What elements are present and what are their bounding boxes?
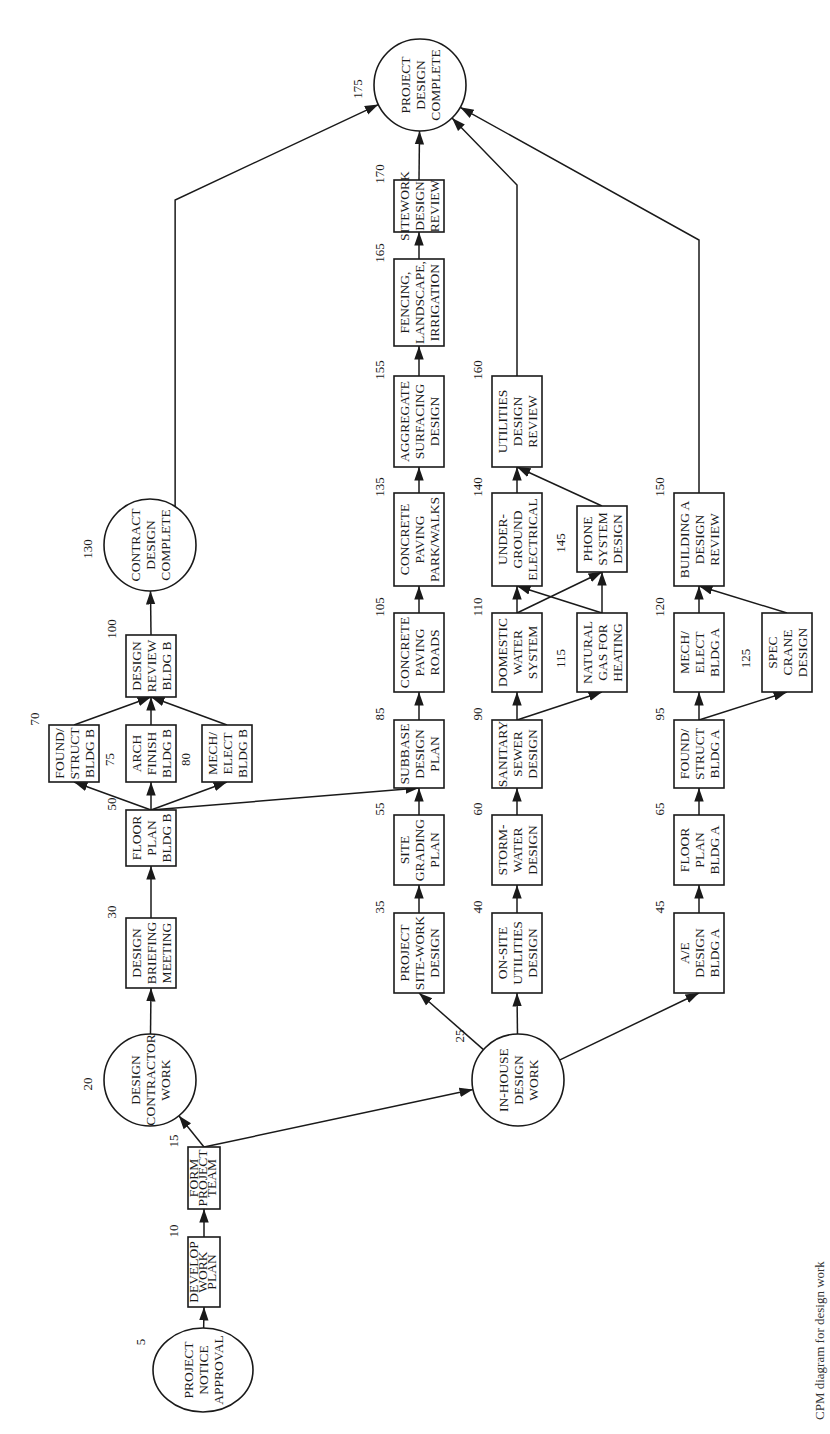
node-number: 40 xyxy=(470,901,485,914)
edge-95-to-125 xyxy=(699,692,787,720)
node-number: 95 xyxy=(652,708,667,721)
edge-160-to-175 xyxy=(452,118,517,376)
edge-15-to-20 xyxy=(179,1116,204,1147)
node-label: ARCHFINISHBLDG B xyxy=(129,729,174,778)
node-80: MECH/ELECTBLDG B80 xyxy=(178,725,252,782)
edge-70-to-100 xyxy=(74,697,151,725)
node-number: 10 xyxy=(166,1225,181,1238)
node-number: 150 xyxy=(652,477,667,497)
caption-text: CPM diagram for design work xyxy=(812,1261,827,1420)
node-label: FOUND/STRUCTBLDG A xyxy=(677,727,722,780)
node-number: 30 xyxy=(104,906,119,919)
node-55: SITEGRADINGPLAN55 xyxy=(372,803,444,886)
node-90: SANITARYSEWERDESIGN90 xyxy=(470,708,542,789)
edge-80-to-100 xyxy=(151,697,227,725)
node-50: FLOORPLANBLDG B50 xyxy=(104,798,176,867)
node-number: 20 xyxy=(80,1078,95,1091)
figure-caption: CPM diagram for design work xyxy=(812,1261,827,1420)
node-number: 145 xyxy=(553,533,568,553)
edge-50-to-80 xyxy=(151,782,227,810)
node-number: 65 xyxy=(652,803,667,816)
node-135: CONCRETEPAVINGPARK/WALKS135 xyxy=(372,477,444,586)
node-40: ON-SITEUTILITIESDESIGN40 xyxy=(470,901,542,994)
node-label: FLOORPLANBLDG B xyxy=(129,813,174,862)
node-label: SITEWORKDESIGNREVIEW xyxy=(397,171,442,241)
node-number: 50 xyxy=(104,798,119,811)
node-number: 70 xyxy=(27,713,42,726)
edge-20-to-30 xyxy=(150,988,151,1034)
edge-115-to-140 xyxy=(517,586,602,613)
node-label: MECH/ELECTBLDG A xyxy=(677,628,722,677)
node-125: SPECCRANEDESIGN125 xyxy=(738,613,812,692)
node-35: PROJECTSITE-WORKDESIGN35 xyxy=(372,901,444,994)
node-160: UTILITIESDESIGNREVIEW160 xyxy=(470,360,542,467)
cpm-network-diagram: PROJECTNOTICEAPPROVAL5DEVELOPWORKPLAN10F… xyxy=(0,0,830,1434)
node-115: NATURALGAS FORHEATING115 xyxy=(553,613,627,692)
node-175: PROJECTDESIGNCOMPLETE175 xyxy=(350,39,466,131)
node-45: A/EDESIGNBLDG A45 xyxy=(652,901,724,994)
node-30: DESIGNBRIEFINGMEETING30 xyxy=(104,906,176,989)
node-60: STORM-WATERDESIGN60 xyxy=(470,803,542,886)
node-120: MECH/ELECTBLDG A120 xyxy=(652,597,724,692)
node-95: FOUND/STRUCTBLDG A95 xyxy=(652,708,724,789)
node-170: SITEWORKDESIGNREVIEW170 xyxy=(372,164,444,241)
node-number: 90 xyxy=(470,708,485,721)
node-number: 115 xyxy=(553,649,568,668)
node-number: 120 xyxy=(652,597,667,617)
node-number: 5 xyxy=(133,1339,148,1346)
node-number: 45 xyxy=(652,901,667,914)
node-label: PHONESYSTEMDESIGN xyxy=(580,512,625,565)
node-label: ON-SITEUTILITIESDESIGN xyxy=(495,921,540,985)
node-75: ARCHFINISHBLDG B75 xyxy=(102,725,176,782)
node-150: BUILDING ADESIGNREVIEW150 xyxy=(652,477,724,586)
edge-25-to-45 xyxy=(559,993,699,1060)
edge-130-to-175 xyxy=(175,105,378,507)
node-140: UNDER-GROUNDELECTRICAL140 xyxy=(470,477,542,586)
node-label: MECH/ELECTBLDG B xyxy=(205,729,250,778)
node-165: FENCING,LANDSCAPE,IRRIGATION165 xyxy=(372,243,444,346)
edge-15-to-25 xyxy=(204,1090,473,1147)
node-label: FENCING,LANDSCAPE,IRRIGATION xyxy=(397,261,442,344)
edge-170-to-175 xyxy=(419,131,420,180)
node-number: 15 xyxy=(166,1135,181,1148)
node-5: PROJECTNOTICEAPPROVAL5 xyxy=(133,1328,253,1412)
node-number: 125 xyxy=(738,649,753,669)
node-number: 105 xyxy=(372,597,387,617)
node-label: NATURALGAS FORHEATING xyxy=(580,621,625,684)
node-20: DESIGNCONTRACTORWORK20 xyxy=(80,1034,196,1126)
node-number: 85 xyxy=(372,708,387,721)
node-label: DESIGNBRIEFINGMEETING xyxy=(129,922,174,985)
node-number: 25 xyxy=(452,1030,467,1043)
node-10: DEVELOPWORKPLAN10 xyxy=(166,1225,220,1308)
node-number: 55 xyxy=(372,803,387,816)
node-label: FLOORPLANBLDG A xyxy=(677,825,722,874)
node-number: 165 xyxy=(372,243,387,263)
node-110: DOMESTICWATERSYSTEM110 xyxy=(470,597,542,692)
node-label: PROJECTNOTICEAPPROVAL xyxy=(181,1335,226,1405)
node-number: 160 xyxy=(470,360,485,380)
node-70: FOUND/STRUCTBLDG B70 xyxy=(27,713,99,783)
node-label: FOUND/STRUCTBLDG B xyxy=(52,727,97,780)
node-number: 75 xyxy=(102,753,117,766)
node-85: SUBBASEDESIGNPLAN85 xyxy=(372,708,444,789)
node-number: 60 xyxy=(470,803,485,816)
node-155: AGGREGATESURFACINGDESIGN155 xyxy=(372,360,444,467)
node-label: DESIGNREVIEWBLDG B xyxy=(129,640,174,693)
node-label: UTILITIESDESIGNREVIEW xyxy=(495,390,540,454)
node-number: 35 xyxy=(372,901,387,914)
node-130: CONTRACTDESIGNCOMPLETE130 xyxy=(80,499,196,591)
edge-90-to-115 xyxy=(517,692,602,720)
node-label: STORM-WATERDESIGN xyxy=(495,824,540,875)
node-number: 155 xyxy=(372,360,387,380)
node-number: 175 xyxy=(350,79,365,99)
node-number: 130 xyxy=(80,539,95,559)
edge-125-to-150 xyxy=(699,586,787,613)
node-65: FLOORPLANBLDG A65 xyxy=(652,803,724,886)
node-number: 135 xyxy=(372,477,387,497)
node-105: CONCRETEPAVINGROADS105 xyxy=(372,597,444,692)
node-100: DESIGNREVIEWBLDG B100 xyxy=(104,619,176,697)
node-number: 100 xyxy=(104,619,119,639)
node-25: IN-HOUSEDESIGNWORK25 xyxy=(452,1030,564,1127)
node-number: 170 xyxy=(372,164,387,184)
node-number: 110 xyxy=(470,597,485,616)
